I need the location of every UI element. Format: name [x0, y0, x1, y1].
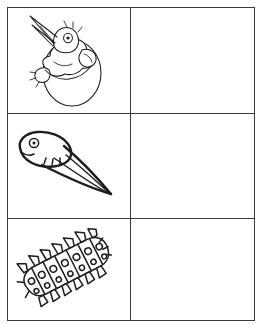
cell-answer-chick[interactable] [131, 8, 255, 114]
caterpillar-rotated-group [9, 222, 119, 312]
tadpole-eye-pupil [33, 142, 36, 145]
tadpole-icon [10, 116, 128, 216]
caterpillar-icon [10, 221, 128, 318]
tadpole-tail-lower-edge [42, 165, 111, 194]
blank-answer-area[interactable] [131, 114, 254, 218]
blank-answer-area[interactable] [131, 219, 254, 320]
hatching-chick-icon [10, 10, 128, 111]
table-row [8, 219, 255, 321]
worksheet-page [0, 0, 261, 324]
cell-answer-caterpillar[interactable] [131, 219, 255, 321]
chick-foot-shape [35, 68, 50, 83]
tadpole-illustration-wrap [8, 114, 130, 218]
cell-illustration-chick[interactable] [8, 8, 131, 114]
cell-illustration-caterpillar[interactable] [8, 219, 131, 321]
cell-answer-tadpole[interactable] [131, 114, 255, 219]
caterpillar-illustration-wrap [8, 219, 130, 320]
blank-answer-area[interactable] [131, 8, 254, 113]
chick-wing-shape [79, 49, 96, 67]
matching-grid [7, 7, 255, 321]
chick-illustration-wrap [8, 8, 130, 113]
chick-eye-pupil [66, 36, 69, 39]
cell-illustration-tadpole[interactable] [8, 114, 131, 219]
chick-beak-lower [32, 25, 55, 46]
table-row [8, 114, 255, 219]
table-row [8, 8, 255, 114]
